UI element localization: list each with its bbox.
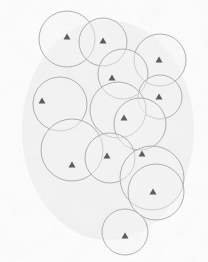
coverage-scatter-plot [0, 0, 208, 262]
figure-canvas [0, 0, 208, 262]
paper-grain-overlay [0, 0, 208, 262]
